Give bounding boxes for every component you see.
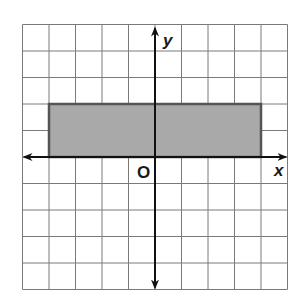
coordinate-plane: x y O	[0, 0, 303, 306]
y-axis-label: y	[162, 31, 174, 50]
origin-label: O	[137, 163, 150, 182]
axes	[25, 29, 286, 288]
x-axis-label: x	[273, 161, 285, 180]
